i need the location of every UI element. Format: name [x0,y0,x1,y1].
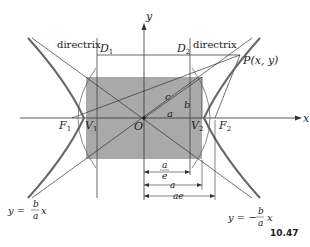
svg-text:b: b [33,199,39,209]
label-f1: F1 [58,119,71,133]
svg-text:b: b [258,206,264,216]
directrix-left-label: directrix [57,39,101,50]
x-axis-label: x [303,112,310,125]
asymptote-right-equation: y = − b a x [227,206,273,228]
svg-text:x: x [267,212,273,223]
label-point-p: P(x, y) [242,54,278,67]
dim-label-a-over-e-den: e [162,171,167,181]
label-a: a [167,108,173,119]
directrix-right-label: directrix [193,39,237,50]
label-c: c [165,91,171,102]
label-f2: F2 [218,119,231,133]
figure-number: 10.47 [270,228,298,238]
y-axis-arrow-icon [142,23,147,30]
svg-text:x: x [41,205,47,216]
dim-label-a-over-e-num: a [162,160,167,170]
label-d2: D2 [176,42,190,56]
label-d1: D1 [99,42,113,56]
x-axis-arrow-icon [295,116,302,121]
line-f2-p [215,55,240,118]
svg-text:a: a [258,218,263,228]
svg-text:a: a [33,211,38,221]
hyperbola-diagram: y x directrix directrix D1 D2 P(x, y) F1… [0,0,310,247]
label-b: b [184,99,190,110]
asymptote-left-equation: y = b a x [7,199,47,221]
svg-text:y =: y = [7,205,25,216]
dim-label-ae: ae [173,191,184,201]
label-origin: O [134,120,143,133]
svg-text:y = −: y = − [227,212,257,223]
y-axis-label: y [145,10,153,23]
dim-label-a: a [170,180,175,190]
